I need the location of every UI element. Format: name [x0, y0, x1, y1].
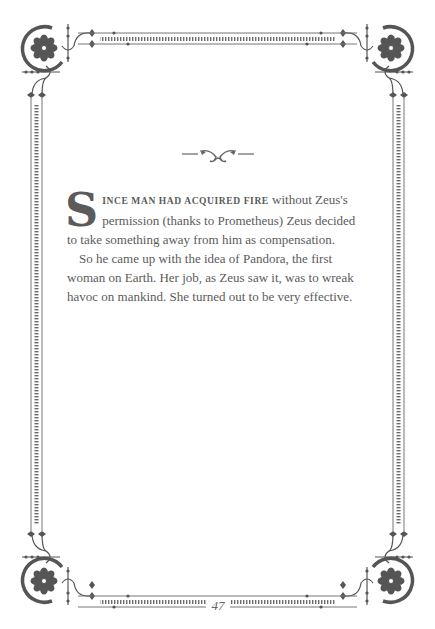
- page-number: 47: [206, 598, 230, 614]
- lead-in-smallcaps: ince man had acquired fire: [102, 196, 269, 206]
- fleuron-divider-icon: [178, 145, 258, 167]
- decorative-page-border: [0, 0, 435, 629]
- page-body: Since man had acquired fire without Zeus…: [67, 190, 367, 306]
- paragraph-2: So he came up with the idea of Pandora, …: [67, 249, 367, 306]
- drop-cap: S: [65, 192, 98, 228]
- paragraph-1: Since man had acquired fire without Zeus…: [67, 190, 367, 249]
